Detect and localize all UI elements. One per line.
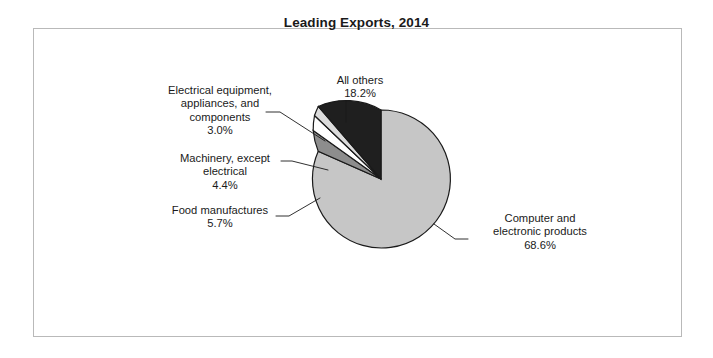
slice-label-all-others: All others 18.2% (305, 74, 415, 101)
pie-chart (0, 0, 713, 358)
slice-label-food-line-1: Food manufactures (150, 204, 290, 217)
slice-label-electrical-line-3: components (150, 111, 290, 124)
slice-label-machinery-line-2: electrical (160, 165, 290, 178)
leader-line-computer (434, 224, 468, 239)
slice-label-machinery: Machinery, except electrical 4.4% (160, 152, 290, 192)
slice-label-electrical-value: 3.0% (150, 124, 290, 137)
slice-label-computer-line-2: electronic products (470, 225, 610, 238)
slice-label-machinery-value: 4.4% (160, 179, 290, 192)
slice-label-all-others-line-1: All others (305, 74, 415, 87)
slice-label-electrical: Electrical equipment, appliances, and co… (150, 84, 290, 138)
slice-label-computer-line-1: Computer and (470, 212, 610, 225)
slice-label-food-value: 5.7% (150, 217, 290, 230)
slice-label-all-others-value: 18.2% (305, 87, 415, 100)
slice-label-food: Food manufactures 5.7% (150, 204, 290, 231)
slice-label-computer-value: 68.6% (470, 239, 610, 252)
slice-label-computer: Computer and electronic products 68.6% (470, 212, 610, 252)
slice-label-electrical-line-1: Electrical equipment, (150, 84, 290, 97)
slice-label-machinery-line-1: Machinery, except (160, 152, 290, 165)
slice-label-electrical-line-2: appliances, and (150, 97, 290, 110)
